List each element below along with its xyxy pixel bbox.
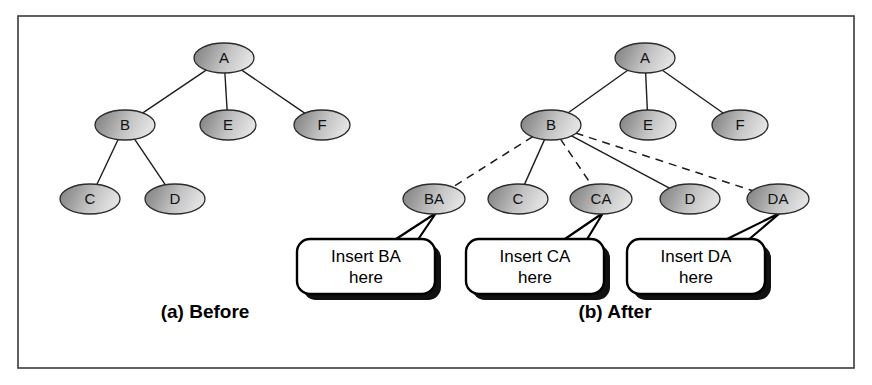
node-before-b: B [95, 110, 155, 140]
node-before-d: D [145, 184, 205, 214]
node-before-e: E [200, 110, 256, 140]
node-after-ca: CA [570, 184, 632, 214]
node-label: A [640, 49, 650, 66]
node-label: F [317, 116, 326, 133]
node-label: B [546, 116, 556, 133]
node-after-d: D [660, 184, 720, 214]
node-before-c: C [60, 184, 120, 214]
callout-ca-line2: here [518, 268, 552, 287]
node-before-f: F [294, 110, 350, 140]
node-label: D [685, 190, 696, 207]
figure-container: Insert BAhereInsert CAhereInsert DAhere … [0, 0, 872, 385]
callout-da-line1: Insert DA [661, 247, 733, 266]
node-label: E [223, 116, 233, 133]
node-after-c: C [488, 184, 548, 214]
node-label: A [219, 49, 229, 66]
panel-caption-after: (b) After [578, 301, 652, 322]
callout-ba-line2: here [349, 268, 383, 287]
node-label: F [735, 116, 744, 133]
node-after-da: DA [747, 184, 809, 214]
callout-ba-line1: Insert BA [331, 247, 402, 266]
tree-insertion-diagram: Insert BAhereInsert CAhereInsert DAhere … [0, 0, 872, 385]
node-after-f: F [712, 110, 768, 140]
node-after-a: A [615, 43, 675, 73]
callout-ca-line1: Insert CA [500, 247, 572, 266]
node-before-a: A [194, 43, 254, 73]
node-label: BA [424, 190, 444, 207]
node-label: D [170, 190, 181, 207]
panel-caption-before: (a) Before [161, 301, 250, 322]
node-label: C [85, 190, 96, 207]
node-after-ba: BA [403, 184, 465, 214]
node-label: E [643, 116, 653, 133]
node-label: B [120, 116, 130, 133]
node-label: C [513, 190, 524, 207]
node-label: CA [591, 190, 612, 207]
node-after-e: E [620, 110, 676, 140]
node-label: DA [768, 190, 789, 207]
node-after-b: B [521, 110, 581, 140]
callout-da-line2: here [679, 268, 713, 287]
